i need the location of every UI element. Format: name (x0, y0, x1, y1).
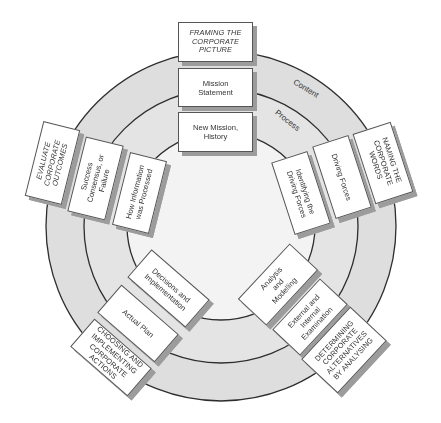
corporate-cycle-diagram: Content Process FRAMING THE CORPORATE PI… (0, 0, 441, 423)
box-label: Driving Forces (330, 152, 354, 201)
box-mission-statement: Mission Statement (178, 68, 253, 107)
box-new-mission-history: New Mission, History (178, 112, 253, 152)
box-label: Mission Statement (182, 79, 249, 97)
box-label: Actual Plan (121, 307, 156, 339)
box-label: New Mission, History (182, 123, 249, 141)
concentric-rings (0, 0, 441, 423)
box-label: How Information was Processed (123, 158, 157, 227)
box-label: FRAMING THE CORPORATE PICTURE (182, 29, 249, 55)
box-framing-corporate-picture: FRAMING THE CORPORATE PICTURE (178, 22, 253, 62)
